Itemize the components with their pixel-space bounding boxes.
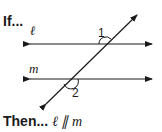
angle-1-label: 1 [98, 26, 105, 40]
angle-2-label: 2 [72, 86, 79, 100]
line-m-label: m [29, 61, 38, 76]
conclusion: ℓ ∥ m [52, 114, 82, 129]
transversal [46, 15, 137, 104]
line-l-label: ℓ [30, 23, 36, 38]
then-label: Then... [3, 113, 48, 129]
then-statement: Then...ℓ ∥ m [3, 113, 82, 130]
